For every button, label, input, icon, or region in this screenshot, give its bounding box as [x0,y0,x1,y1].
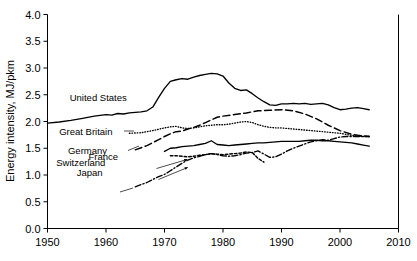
y-axis-ticks [44,15,48,229]
y-axis-title: Energy intensity, MJ/pkm [4,60,16,182]
x-tick-label: 2000 [328,236,352,248]
leader-france [157,160,188,169]
y-tick-label: 0.5 [25,196,40,208]
x-tick-label: 1960 [94,236,118,248]
y-tick-label: 1.0 [25,169,40,181]
leader-japan [120,188,133,192]
leader-switzerland [159,168,188,180]
series-label-great-britain: Great Britain [59,126,112,137]
y-tick-label: 0.0 [25,223,40,235]
x-tick-label: 1950 [35,236,59,248]
x-axis-tick-labels: 1950196019701980199020002010 [35,236,410,248]
x-tick-label: 1990 [269,236,293,248]
plot-frame [48,15,399,229]
series-line-france [165,140,370,151]
series-line-switzerland [170,152,264,162]
series-labels: United StatesGreat BritainGermanyFranceS… [56,92,127,178]
x-tick-label: 2010 [386,236,410,248]
y-axis-tick-labels: 0.00.51.01.52.02.53.03.54.0 [25,9,40,235]
series-line-great-britain [129,122,369,137]
y-tick-label: 2.0 [25,116,40,128]
y-tick-label: 4.0 [25,9,40,21]
x-axis-ticks [48,229,399,233]
y-tick-label: 1.5 [25,142,40,154]
leader-lines [120,131,188,192]
chart-svg: 0.00.51.01.52.02.53.03.54.0 195019601970… [0,0,417,261]
energy-intensity-chart: 0.00.51.01.52.02.53.03.54.0 195019601970… [0,0,417,261]
y-tick-label: 2.5 [25,89,40,101]
y-tick-label: 3.0 [25,62,40,74]
y-tick-label: 3.5 [25,35,40,47]
series-label-switzerland: Switzerland [56,157,105,168]
x-tick-label: 1980 [211,236,235,248]
series-label-japan: Japan [77,167,103,178]
x-tick-label: 1970 [152,236,176,248]
series-label-united-states: United States [70,92,127,103]
